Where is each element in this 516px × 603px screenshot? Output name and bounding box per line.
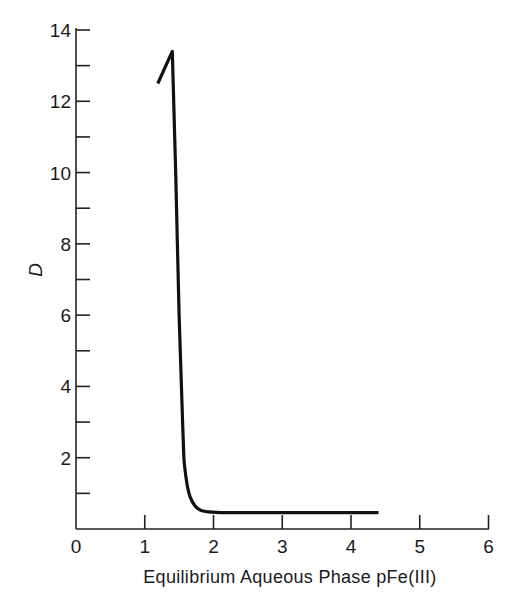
chart: 2468101214 0123456 D Equilibrium Aqueous… bbox=[0, 0, 516, 603]
y-tick-label: 4 bbox=[60, 376, 71, 397]
y-ticks: 2468101214 bbox=[50, 20, 90, 493]
y-tick-label: 8 bbox=[60, 234, 71, 255]
y-tick-label: 10 bbox=[50, 163, 71, 184]
y-tick-label: 12 bbox=[50, 91, 71, 112]
x-tick-label: 4 bbox=[346, 536, 357, 557]
x-tick-label: 2 bbox=[208, 536, 219, 557]
axes bbox=[76, 28, 489, 529]
y-axis-label: D bbox=[25, 263, 46, 277]
x-tick-label: 6 bbox=[483, 536, 494, 557]
x-tick-label: 1 bbox=[139, 536, 150, 557]
x-tick-label: 5 bbox=[414, 536, 425, 557]
x-axis-label: Equilibrium Aqueous Phase pFe(III) bbox=[143, 567, 436, 587]
y-tick-label: 2 bbox=[60, 448, 71, 469]
x-tick-label: 3 bbox=[277, 536, 288, 557]
y-tick-label: 14 bbox=[50, 20, 72, 41]
x-tick-label: 0 bbox=[71, 536, 82, 557]
y-tick-label: 6 bbox=[60, 305, 71, 326]
data-line bbox=[158, 51, 379, 512]
x-ticks: 0123456 bbox=[71, 515, 494, 557]
